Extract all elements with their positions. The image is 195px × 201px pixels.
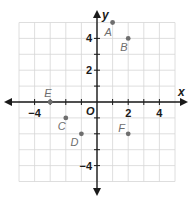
y-tick-label: 2 [86,64,92,76]
y-tick-label: 4 [86,32,93,44]
axes: x y O [4,8,188,196]
point-marker-icon [48,100,53,105]
y-axis-down-arrow-icon [93,188,101,196]
point-label: D [70,136,78,148]
point-marker-icon [110,20,115,25]
point-label: E [44,87,52,99]
origin-label: O [86,105,95,117]
x-axis-left-arrow-icon [4,98,12,106]
point-label: A [104,26,112,38]
point-label: C [58,120,66,132]
x-tick-label: −4 [28,107,41,119]
x-tick-label: 4 [156,107,163,119]
x-axis-right-arrow-icon [180,98,188,106]
point-label: F [118,122,126,134]
point-label: B [120,41,127,53]
y-axis-up-arrow-icon [93,10,101,18]
point-marker-icon [79,131,84,136]
point-marker-icon [126,36,131,41]
coordinate-plane: x y O −42442−4 ABCDEF [0,0,195,201]
point-marker-icon [126,131,131,136]
y-axis-label: y [101,8,110,22]
x-tick-label: 2 [125,107,131,119]
x-axis-label: x [177,85,186,99]
y-tick-label: −4 [79,160,92,172]
